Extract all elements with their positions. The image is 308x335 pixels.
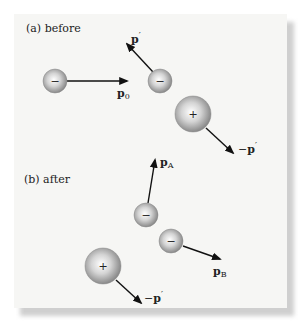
negative-charge-icon: − bbox=[50, 75, 59, 88]
negative-charge-icon: − bbox=[155, 75, 164, 88]
negative-charge-icon: − bbox=[166, 235, 175, 248]
vector-label-minus-p-prime: −p′ bbox=[238, 141, 257, 156]
vector-pA-arrow bbox=[148, 160, 155, 203]
vector-minus-p-prime-arrow bbox=[116, 280, 141, 303]
vector-label-p-prime: p′ bbox=[131, 31, 141, 46]
collision-diagram: − p0 − p′ + −p′ − pA − pB + −p′ bbox=[0, 0, 308, 335]
vector-label-pA: pA bbox=[160, 156, 174, 170]
positive-charge-icon: + bbox=[188, 108, 197, 121]
vector-pB-arrow bbox=[183, 246, 220, 259]
panel-a: − p0 − p′ + −p′ bbox=[43, 31, 257, 156]
positive-charge-icon: + bbox=[98, 260, 107, 273]
vector-p-prime-arrow bbox=[127, 44, 153, 72]
panel-b: − pA − pB + −p′ bbox=[85, 156, 227, 305]
vector-minus-p-prime-arrow bbox=[206, 128, 233, 153]
vector-label-pB: pB bbox=[213, 265, 227, 279]
vector-label-minus-p-prime: −p′ bbox=[144, 290, 163, 305]
negative-charge-icon: − bbox=[141, 209, 150, 222]
vector-label-p0: p0 bbox=[117, 87, 130, 101]
